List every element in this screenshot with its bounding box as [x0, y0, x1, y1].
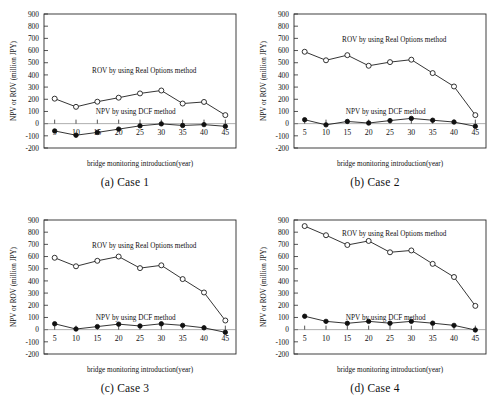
y-tick-label: 400: [28, 277, 39, 286]
x-tick-label: 40: [450, 334, 458, 343]
data-point-npv: [202, 326, 206, 330]
data-point-npv: [116, 322, 120, 326]
y-tick-label: 600: [278, 252, 289, 261]
series-label-rov: ROV by using Real Options method: [92, 242, 197, 250]
data-point-npv: [223, 330, 227, 334]
data-point-npv: [302, 118, 306, 122]
x-tick-label: 10: [322, 128, 330, 137]
data-point-npv: [388, 118, 392, 122]
data-point-npv: [95, 130, 99, 134]
data-point-rov: [116, 95, 121, 100]
data-point-rov: [345, 242, 350, 247]
data-point-rov: [388, 250, 393, 255]
data-point-rov: [138, 266, 143, 271]
data-point-npv: [302, 314, 306, 318]
y-tick-label: 300: [278, 83, 289, 92]
x-tick-label: 35: [179, 128, 187, 137]
data-point-rov: [409, 57, 414, 62]
x-tick-label: 25: [386, 334, 394, 343]
data-point-rov: [430, 261, 435, 266]
y-axis-title: NPV or ROV (million JPY): [260, 246, 268, 327]
data-point-rov: [452, 84, 457, 89]
data-point-npv: [116, 127, 120, 131]
y-tick-label: 400: [278, 71, 289, 80]
data-point-npv: [138, 124, 142, 128]
data-point-npv: [74, 133, 78, 137]
y-tick-label: 300: [278, 289, 289, 298]
data-point-rov: [159, 263, 164, 268]
data-point-npv: [473, 124, 477, 128]
y-tick-label: -200: [275, 350, 289, 359]
figure-grid: 9008007006005004003002001000-100-2005101…: [0, 0, 500, 412]
y-tick-label: 200: [278, 95, 289, 104]
data-point-rov: [95, 258, 100, 263]
y-tick-label: 200: [278, 301, 289, 310]
x-tick-label: 5: [53, 334, 57, 343]
x-tick-label: 5: [303, 128, 307, 137]
y-tick-label: 800: [278, 228, 289, 237]
series-label-npv: NPV by using DCF method: [346, 314, 426, 322]
plot-area-case-1: 9008007006005004003002001000-100-2005101…: [0, 0, 250, 170]
series-label-npv: NPV by using DCF method: [96, 314, 176, 322]
x-tick-label: 30: [157, 334, 165, 343]
data-point-rov: [180, 277, 185, 282]
y-tick-label: 900: [278, 10, 289, 19]
y-tick-label: -200: [25, 350, 39, 359]
y-tick-label: 100: [278, 313, 289, 322]
y-tick-label: 0: [35, 325, 39, 334]
plot-area-case-2: 9008007006005004003002001000-100-2005101…: [250, 0, 500, 170]
data-point-npv: [473, 328, 477, 332]
series-line-rov: [305, 226, 476, 306]
y-tick-label: 700: [278, 240, 289, 249]
data-point-npv: [180, 323, 184, 327]
x-tick-label: 15: [93, 334, 101, 343]
x-tick-label: 5: [303, 334, 307, 343]
x-tick-label: 45: [221, 334, 229, 343]
data-point-npv: [138, 324, 142, 328]
x-tick-label: 10: [72, 334, 80, 343]
data-point-rov: [302, 224, 307, 229]
data-point-rov: [223, 318, 228, 323]
data-point-rov: [74, 264, 79, 269]
data-point-rov: [452, 275, 457, 280]
y-tick-label: 600: [28, 252, 39, 261]
data-point-rov: [473, 113, 478, 118]
y-tick-label: 900: [28, 216, 39, 225]
y-axis-title: NPV or ROV (million JPY): [260, 40, 268, 121]
x-tick-label: 25: [136, 334, 144, 343]
chart-panel-case-3: 9008007006005004003002001000-100-2005101…: [0, 206, 250, 412]
data-point-npv: [366, 121, 370, 125]
y-tick-label: -200: [275, 144, 289, 153]
x-tick-label: 15: [343, 334, 351, 343]
data-point-rov: [52, 255, 57, 260]
data-point-npv: [159, 122, 163, 126]
y-tick-label: -100: [25, 132, 39, 141]
data-point-rov: [52, 96, 57, 101]
data-point-rov: [430, 71, 435, 76]
x-tick-label: 40: [200, 334, 208, 343]
y-tick-label: 0: [285, 325, 289, 334]
plot-case-1: 9008007006005004003002001000-100-2005101…: [0, 0, 250, 170]
y-tick-label: 500: [278, 264, 289, 273]
data-point-npv: [180, 123, 184, 127]
y-tick-label: 600: [278, 46, 289, 55]
data-point-npv: [95, 324, 99, 328]
y-tick-label: 700: [28, 240, 39, 249]
data-point-rov: [74, 104, 79, 109]
data-point-rov: [202, 99, 207, 104]
x-tick-label: 20: [365, 128, 373, 137]
data-point-rov: [180, 101, 185, 106]
y-tick-label: 100: [278, 107, 289, 116]
x-tick-label: 10: [322, 334, 330, 343]
y-tick-label: 500: [278, 58, 289, 67]
y-tick-label: 400: [28, 71, 39, 80]
data-point-rov: [366, 238, 371, 243]
y-tick-label: -100: [275, 338, 289, 347]
x-tick-label: 20: [115, 334, 123, 343]
panel-caption-case-2: (b) Case 2: [250, 176, 500, 188]
chart-panel-case-4: 9008007006005004003002001000-100-2005101…: [250, 206, 500, 412]
plot-case-2: 9008007006005004003002001000-100-2005101…: [250, 0, 500, 170]
x-axis-title: bridge monitoring introduction(year): [337, 160, 444, 168]
series-label-npv: NPV by using DCF method: [96, 108, 176, 116]
series-label-npv: NPV by using DCF method: [346, 108, 426, 116]
